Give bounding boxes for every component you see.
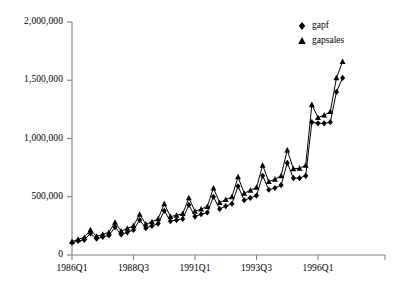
series-gapf [69, 75, 345, 246]
diamond-marker [260, 173, 265, 179]
y-tick-label: 1,000,000 [0, 133, 63, 143]
triangle-marker [254, 184, 260, 190]
diamond-marker [174, 217, 179, 223]
x-tick-label: 1996Q1 [284, 263, 352, 273]
triangle-marker [284, 147, 290, 153]
legend-label-gapsales: gapsales [312, 35, 344, 45]
triangle-marker [137, 211, 143, 217]
diamond-marker [254, 192, 259, 198]
diamond-marker [315, 120, 320, 126]
triangle-marker [272, 176, 278, 182]
triangle-marker [112, 219, 118, 225]
triangle-marker [309, 102, 315, 108]
triangle-marker [278, 173, 284, 179]
x-tick-label: 1993Q3 [223, 263, 291, 273]
y-tick-label: 0 [0, 249, 63, 259]
triangle-marker [297, 165, 303, 171]
y-tick-label: 2,000,000 [0, 16, 63, 26]
triangle-marker [321, 112, 327, 118]
chart-container: 0500,0001,000,0001,500,0002,000,000 1986… [0, 0, 396, 294]
triangle-marker [247, 187, 253, 193]
y-axis-ticks [67, 22, 72, 255]
diamond-marker [223, 203, 228, 209]
diamond-marker [279, 182, 284, 188]
triangle-marker [149, 219, 155, 225]
triangle-marker [241, 190, 247, 196]
triangle-marker [303, 162, 309, 168]
triangle-marker [334, 75, 340, 81]
diamond-marker [199, 211, 204, 217]
diamond-marker [322, 120, 327, 126]
triangle-marker [223, 197, 229, 203]
triangle-marker [235, 174, 241, 180]
diamond-marker [285, 160, 290, 166]
legend-label-gapf: gapf [312, 20, 329, 30]
diamond-marker [229, 201, 234, 207]
diamond-marker [340, 75, 345, 81]
legend-marker-gapsales [298, 37, 306, 44]
triangle-marker [211, 185, 217, 191]
x-tick-label: 1986Q1 [38, 263, 106, 273]
y-tick-label: 1,500,000 [0, 74, 63, 84]
triangle-marker [340, 59, 346, 65]
diamond-marker [328, 119, 333, 125]
triangle-marker [260, 162, 266, 168]
triangle-marker [217, 199, 223, 205]
triangle-marker [161, 201, 167, 207]
diamond-marker [156, 220, 161, 226]
triangle-marker [88, 227, 94, 233]
x-tick-label: 1991Q1 [161, 263, 229, 273]
diamond-marker [303, 173, 308, 179]
x-tick-label: 1988Q3 [100, 263, 168, 273]
diamond-marker [217, 206, 222, 212]
diamond-marker [297, 175, 302, 181]
diamond-marker [205, 209, 210, 215]
triangle-marker [186, 195, 192, 201]
diamond-marker [266, 187, 271, 193]
diamond-marker [272, 185, 277, 191]
axis-lines [72, 22, 385, 255]
diamond-marker [291, 175, 296, 181]
series-line-gapf [72, 78, 343, 243]
legend-marker-gapf [299, 22, 306, 30]
x-axis-ticks [72, 255, 385, 260]
legend-markers [298, 22, 306, 44]
series-gapsales [69, 59, 345, 245]
y-tick-label: 500,000 [0, 191, 63, 201]
diamond-marker [192, 213, 197, 219]
diamond-marker [248, 195, 253, 201]
triangle-marker [131, 223, 137, 229]
data-series-layer [69, 59, 345, 246]
diamond-marker [242, 197, 247, 203]
diamond-marker [180, 216, 185, 222]
